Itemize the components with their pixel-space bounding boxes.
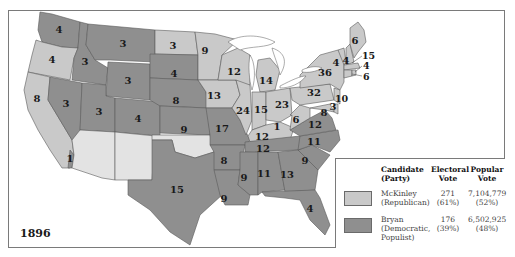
- label-iowa: 13: [207, 90, 221, 101]
- label-illinois: 24: [236, 105, 250, 116]
- legend-mckinley-electoral: 271: [431, 189, 465, 198]
- legend-mckinley-popular: 7,104,779: [468, 189, 506, 198]
- label-wisconsin: 12: [227, 66, 241, 77]
- legend-bryan-electoral-pct: (39%): [431, 224, 465, 233]
- label-maryland: 8: [321, 107, 328, 118]
- state-north-dakota: [155, 30, 198, 55]
- label-california: 8: [34, 93, 41, 104]
- legend-header-party-text: (Party): [381, 174, 424, 183]
- label-oregon: 4: [49, 54, 56, 65]
- legend-popular-bryan: 6,502,925 (48%): [468, 215, 506, 233]
- state-rhode-island: [352, 70, 356, 76]
- legend-header-popular-vote-text: Vote: [470, 174, 504, 183]
- legend-mckinley-electoral-pct: (61%): [431, 198, 465, 207]
- label-montana: 3: [120, 38, 127, 49]
- label-rhode-island: 4: [363, 60, 370, 71]
- label-south-dakota: 4: [171, 68, 178, 79]
- legend-swatch-mckinley: [344, 191, 372, 206]
- legend-header-popular-text: Popular: [470, 165, 504, 174]
- legend-bryan-party: (Democratic,: [381, 224, 430, 233]
- legend-bryan-popular-pct: (48%): [468, 224, 506, 233]
- legend-swatch-bryan: [344, 218, 372, 233]
- label-arkansas: 8: [221, 155, 228, 166]
- label-indiana: 15: [254, 104, 268, 115]
- label-california-bryan: 1: [67, 153, 74, 164]
- label-kentucky-bryan: 1: [274, 121, 281, 132]
- label-vermont: 4: [333, 57, 340, 68]
- label-mississippi: 9: [241, 172, 248, 183]
- state-arizona: [72, 130, 115, 180]
- legend-mckinley-popular-pct: (52%): [468, 198, 506, 207]
- label-colorado: 4: [135, 113, 142, 124]
- label-nebraska: 8: [173, 95, 180, 106]
- label-minnesota: 9: [202, 45, 209, 56]
- legend-header-electoral-text: Electoral: [431, 165, 465, 174]
- label-utah: 3: [96, 106, 103, 117]
- label-idaho: 3: [82, 56, 89, 67]
- label-georgia: 13: [280, 169, 294, 180]
- label-new-hampshire: 4: [343, 55, 350, 66]
- legend-mckinley-party: (Republican): [381, 198, 430, 207]
- label-alabama: 11: [257, 168, 271, 179]
- legend-candidate-bryan: Bryan (Democratic, Populist): [381, 215, 430, 242]
- legend-electoral-bryan: 176 (39%): [431, 215, 465, 233]
- state-florida: [262, 190, 330, 235]
- legend-header-popular: Popular Vote: [470, 165, 504, 183]
- label-ohio: 23: [275, 99, 289, 110]
- legend-header-electoral: Electoral Vote: [431, 165, 465, 183]
- legend-header-candidate-text: Candidate: [381, 165, 424, 174]
- label-connecticut: 6: [363, 71, 370, 82]
- legend-electoral-mckinley: 271 (61%): [431, 189, 465, 207]
- label-kansas: 9: [181, 124, 188, 135]
- label-virginia: 12: [308, 119, 322, 130]
- legend-bryan-popular: 6,502,925: [468, 215, 506, 224]
- label-washington: 4: [56, 24, 63, 35]
- label-nevada: 3: [63, 98, 70, 109]
- label-north-dakota: 3: [170, 40, 177, 51]
- label-pennsylvania: 32: [307, 87, 321, 98]
- legend-bryan-name: Bryan: [381, 215, 430, 224]
- election-year-label: 1896: [20, 227, 51, 240]
- label-louisiana: 9: [221, 193, 228, 204]
- legend-bryan-electoral: 176: [431, 215, 465, 224]
- label-south-carolina: 9: [302, 155, 309, 166]
- label-michigan: 14: [259, 75, 273, 86]
- label-kentucky: 12: [255, 131, 269, 142]
- legend-mckinley-name: McKinley: [381, 189, 430, 198]
- label-texas: 15: [170, 184, 184, 195]
- label-maine: 6: [352, 35, 359, 46]
- label-tennessee: 12: [256, 143, 270, 154]
- legend-header-electoral-vote-text: Vote: [431, 174, 465, 183]
- label-new-jersey: 10: [335, 93, 349, 104]
- lake-superior: [228, 36, 275, 50]
- legend-candidate-mckinley: McKinley (Republican): [381, 189, 430, 207]
- label-new-york: 36: [318, 67, 332, 78]
- legend-popular-mckinley: 7,104,779 (52%): [468, 189, 506, 207]
- legend-bryan-party-cont: Populist): [381, 233, 430, 242]
- state-connecticut: [344, 70, 352, 78]
- label-wyoming: 3: [125, 75, 132, 86]
- label-north-carolina: 11: [307, 136, 321, 147]
- state-new-mexico: [115, 132, 155, 180]
- label-missouri: 17: [215, 123, 229, 134]
- legend-box: Candidate (Party) Electoral Vote Popular…: [335, 158, 505, 248]
- label-florida: 4: [307, 203, 314, 214]
- label-west-virginia: 6: [293, 114, 300, 125]
- legend-header-candidate: Candidate (Party): [381, 165, 424, 183]
